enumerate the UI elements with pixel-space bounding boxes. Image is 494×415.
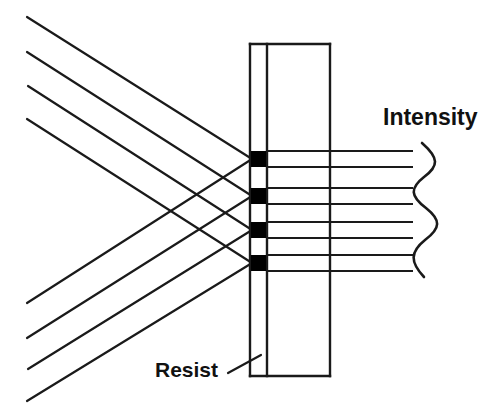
exposed-resist-site-2 bbox=[251, 188, 266, 204]
diagram-background bbox=[0, 0, 494, 415]
exposed-resist-site-4 bbox=[251, 255, 266, 271]
interference-lithography-diagram: Intensity Resist bbox=[0, 0, 494, 415]
intensity-label: Intensity bbox=[383, 104, 478, 130]
exposed-resist-site-3 bbox=[251, 222, 266, 238]
diagram-canvas: Intensity Resist bbox=[0, 0, 494, 415]
exposed-resist-site-1 bbox=[251, 151, 266, 167]
resist-label: Resist bbox=[155, 358, 218, 381]
